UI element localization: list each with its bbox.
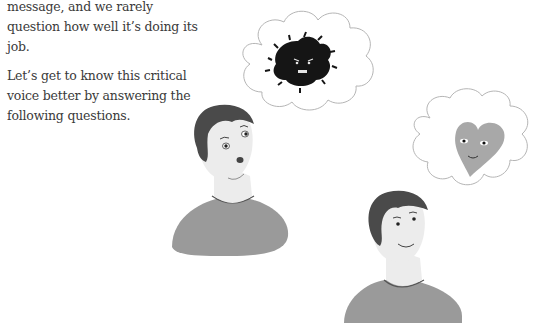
calm-person [344,191,462,323]
worried-person [172,105,288,256]
illustration [0,0,549,323]
